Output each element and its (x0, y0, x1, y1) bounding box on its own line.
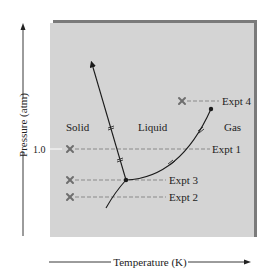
pressure-axis: Pressure (atm) (17, 23, 30, 236)
phase-diagram: Pressure (atm) 1.0 Temperature (K) (0, 0, 273, 277)
expt-1-label: Expt 1 (212, 143, 241, 155)
expt-4-label: Expt 4 (222, 95, 252, 107)
x-axis-label: Temperature (K) (113, 256, 187, 269)
y-axis-label: Pressure (atm) (17, 93, 30, 157)
expt-2-label: Expt 2 (169, 191, 198, 203)
critical-point (209, 107, 213, 111)
triple-point (124, 178, 128, 182)
expt-3-label: Expt 3 (169, 174, 199, 186)
region-solid: Solid (66, 121, 90, 133)
arrow-right-icon (244, 260, 251, 265)
region-gas: Gas (224, 121, 241, 133)
region-liquid: Liquid (138, 121, 168, 133)
temperature-axis: Temperature (K) (49, 256, 251, 269)
y-tick-label: 1.0 (33, 144, 46, 155)
arrow-up-icon (21, 23, 26, 30)
